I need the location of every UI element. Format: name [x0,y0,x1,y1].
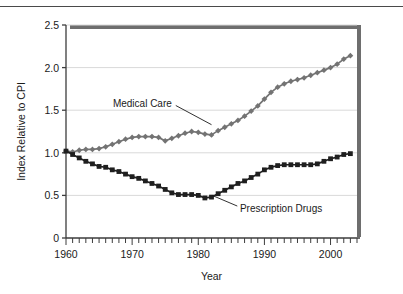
series-1-marker [322,159,327,164]
plot-shadow-top [70,25,361,29]
annotation-label-0: Medical Care [113,98,172,109]
series-1-marker [262,167,267,172]
y-tick-label-0.5: 0.5 [44,189,59,201]
series-1-marker [143,179,148,184]
series-1-marker [335,155,340,160]
series-1-marker [236,181,241,186]
y-tick-label-0: 0 [53,232,59,244]
series-1-marker [103,165,108,170]
series-1-marker [123,172,128,177]
series-1-marker [156,184,161,189]
series-1-marker [130,174,135,179]
series-1-marker [202,196,207,201]
annotation-label-1: Prescription Drugs [240,203,322,214]
series-1-marker [341,152,346,157]
y-tick-label-2.5: 2.5 [44,19,59,31]
series-1-marker [216,191,221,196]
series-1-marker [183,192,188,197]
series-1-marker [136,176,141,181]
series-1-marker [222,188,227,193]
series-1-marker [348,151,353,156]
series-1-marker [288,162,293,167]
x-tick-label-1970: 1970 [120,248,144,260]
y-tick-label-1.5: 1.5 [44,104,59,116]
series-1-marker [229,184,234,189]
series-1-marker [163,187,168,192]
series-1-marker [328,156,333,161]
x-tick-label-1980: 1980 [187,248,211,260]
y-axis-title: Index Relative to CPI [15,82,27,181]
series-1-marker [255,172,260,177]
series-1-marker [176,192,181,197]
series-1-marker [269,165,274,170]
series-1-marker [70,152,75,157]
series-1-marker [249,175,254,180]
series-1-marker [117,169,122,174]
series-1-marker [77,156,82,161]
x-tick-label-2000: 2000 [319,248,343,260]
y-tick-label-1.0: 1.0 [44,147,59,159]
y-tick-label-2.0: 2.0 [44,62,59,74]
series-1-marker [196,193,201,198]
x-axis-title: Year [201,270,223,282]
series-1-marker [242,179,247,184]
series-1-marker [150,181,155,186]
series-1-marker [302,162,307,167]
series-1-marker [189,192,194,197]
series-1-marker [308,162,313,167]
series-1-marker [97,164,102,169]
top-divider-rule [0,6,403,7]
plot-shadow-right [357,25,361,237]
chart-figure: 00.51.01.52.02.519601970198019902000Year… [0,0,403,294]
x-tick-label-1990: 1990 [253,248,277,260]
series-1-marker [315,161,320,166]
series-1-marker [90,161,95,166]
line-chart: 00.51.01.52.02.519601970198019902000Year… [0,0,403,294]
series-1-marker [110,167,115,172]
series-1-marker [275,163,280,168]
series-1-marker [64,149,69,154]
series-1-marker [282,162,287,167]
series-1-marker [169,190,174,195]
series-1-marker [295,162,300,167]
x-tick-label-1960: 1960 [54,248,78,260]
series-1-marker [83,159,88,164]
